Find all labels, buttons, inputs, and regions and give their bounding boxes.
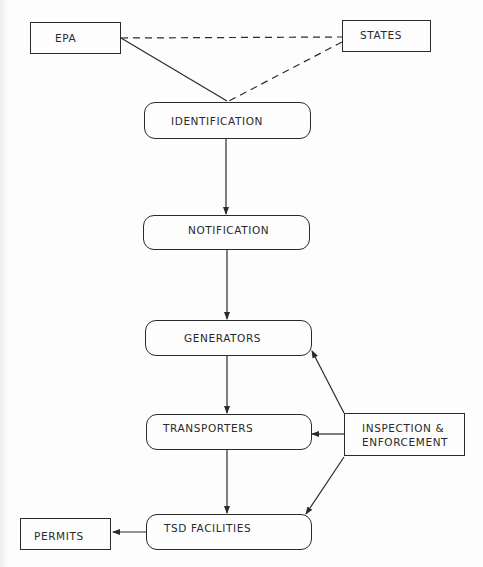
node-tsd-facilities-label: TSD FACILITIES	[164, 521, 251, 535]
node-permits-label: PERMITS	[34, 529, 84, 543]
node-tsd-facilities: TSD FACILITIES	[146, 514, 312, 550]
node-states-label: STATES	[360, 28, 402, 42]
arrow-inspection-to-tsd	[306, 457, 344, 514]
node-identification: IDENTIFICATION	[144, 102, 311, 139]
node-notification-label: NOTIFICATION	[188, 223, 269, 237]
node-permits: PERMITS	[20, 518, 111, 550]
node-states: STATES	[342, 20, 431, 52]
node-identification-label: IDENTIFICATION	[171, 114, 263, 128]
node-transporters: TRANSPORTERS	[146, 414, 312, 450]
edge-states-identification-dashed	[229, 42, 342, 101]
arrow-inspection-to-generators	[312, 351, 344, 413]
edge-epa-identification	[121, 38, 227, 101]
node-notification: NOTIFICATION	[143, 215, 310, 250]
edge-epa-states-dashed	[121, 37, 342, 38]
node-generators-label: GENERATORS	[184, 331, 261, 345]
node-transporters-label: TRANSPORTERS	[163, 421, 253, 435]
node-inspection-enforcement: INSPECTION & ENFORCEMENT	[344, 413, 465, 456]
connector-layer	[0, 0, 483, 567]
node-epa: EPA	[30, 22, 121, 54]
node-generators: GENERATORS	[145, 320, 312, 356]
node-inspection-label-line1: INSPECTION &	[362, 421, 444, 435]
node-inspection-label-line2: ENFORCEMENT	[362, 435, 448, 449]
node-epa-label: EPA	[55, 31, 76, 45]
